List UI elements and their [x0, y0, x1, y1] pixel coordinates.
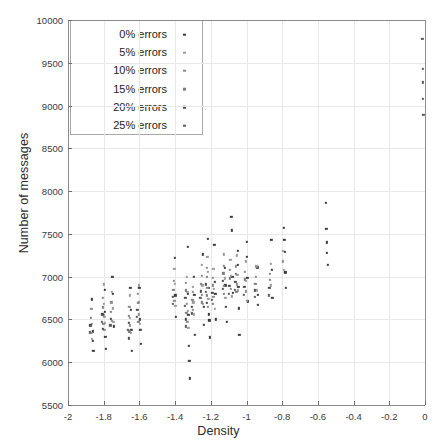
data-point [202, 253, 204, 255]
y-tick-mark [68, 362, 72, 363]
data-point [129, 324, 131, 326]
data-point [89, 331, 91, 333]
data-point [201, 301, 203, 303]
x-tick-mark [389, 401, 390, 405]
data-point [325, 202, 327, 204]
data-point [201, 293, 203, 295]
x-tick-label: -1.8 [84, 411, 124, 422]
data-point [284, 271, 286, 273]
data-point [105, 348, 107, 350]
x-tick-mark [282, 401, 283, 405]
axis-right [425, 20, 426, 405]
data-point [186, 276, 188, 278]
data-point [214, 281, 216, 283]
data-point [110, 301, 112, 303]
data-point [209, 336, 211, 338]
data-point [184, 297, 186, 299]
data-point [208, 319, 210, 321]
legend-item[interactable]: 0% errors [71, 25, 202, 44]
data-point [228, 293, 230, 295]
data-point [212, 268, 214, 270]
data-point [206, 256, 208, 258]
x-tick-label: -0.6 [298, 411, 338, 422]
data-point [271, 297, 273, 299]
data-point [207, 305, 209, 307]
x-tick-mark [247, 401, 248, 405]
data-point [128, 337, 130, 339]
data-point [192, 301, 194, 303]
data-point [283, 239, 285, 241]
data-point [91, 298, 93, 300]
gridline-vertical [389, 20, 390, 405]
data-point [128, 305, 130, 307]
legend-item-marker [183, 88, 186, 91]
gridline-horizontal [68, 234, 425, 235]
data-point [200, 290, 202, 292]
data-point [229, 269, 231, 271]
data-point [225, 305, 227, 307]
data-point [225, 321, 227, 323]
data-point [230, 216, 232, 218]
data-point [90, 308, 92, 310]
y-tick-label: 9500 [19, 57, 63, 68]
data-point [222, 280, 224, 282]
data-point [255, 276, 257, 278]
data-point [138, 287, 140, 289]
x-tick-label: -1.6 [119, 411, 159, 422]
data-point [422, 98, 424, 100]
legend-item-marker [183, 51, 186, 54]
legend-item[interactable]: 15% errors [71, 80, 202, 99]
data-point [103, 289, 105, 291]
data-point [211, 292, 213, 294]
data-point [213, 287, 215, 289]
data-point [207, 270, 209, 272]
data-point [101, 321, 103, 323]
x-tick-label: -2 [48, 411, 88, 422]
data-point [237, 286, 239, 288]
data-point [102, 328, 104, 330]
data-point [206, 287, 208, 289]
data-point [208, 313, 210, 315]
data-point [172, 296, 174, 298]
legend-item[interactable]: 20% errors [71, 98, 202, 117]
data-point [269, 273, 271, 275]
data-point [229, 287, 231, 289]
data-point [246, 276, 248, 278]
data-point [172, 288, 174, 290]
gridline-vertical [318, 20, 319, 405]
data-point [139, 329, 141, 331]
data-point [110, 317, 112, 319]
data-point [327, 264, 329, 266]
data-point [194, 334, 196, 336]
legend: 0% errors5% errors10% errors15% errors20… [70, 20, 203, 135]
data-point [91, 338, 93, 340]
legend-item[interactable]: 10% errors [71, 61, 202, 80]
data-point [174, 294, 176, 296]
data-point [130, 329, 132, 331]
data-point [236, 250, 238, 252]
gridline-horizontal [68, 63, 425, 64]
data-point [254, 296, 256, 298]
y-tick-label: 8500 [19, 143, 63, 154]
data-point [268, 287, 270, 289]
legend-item-marker [183, 70, 186, 73]
data-point [173, 299, 175, 301]
data-point [136, 316, 138, 318]
data-point [422, 68, 424, 70]
legend-item[interactable]: 25% errors [71, 116, 202, 135]
axis-bottom [68, 405, 425, 406]
data-point [186, 246, 188, 248]
data-point [173, 268, 175, 270]
data-point [192, 309, 194, 311]
data-point [103, 283, 105, 285]
data-point [231, 292, 233, 294]
gridline-vertical [247, 20, 248, 405]
data-point [422, 81, 424, 83]
x-tick-mark [425, 401, 426, 405]
legend-item[interactable]: 5% errors [71, 43, 202, 62]
data-point [92, 350, 94, 352]
data-point [212, 276, 214, 278]
data-point [215, 318, 217, 320]
data-point [246, 256, 248, 258]
data-point [191, 291, 193, 293]
